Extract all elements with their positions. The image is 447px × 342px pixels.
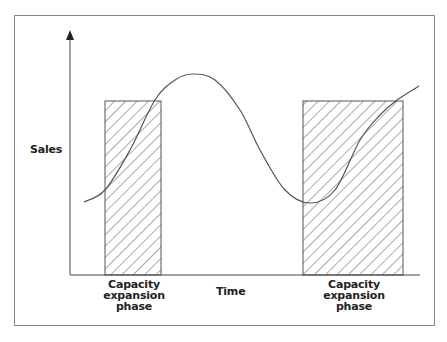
phase-label-left: Capacity expansion phase [96, 279, 172, 312]
phase-label-right-line: phase [316, 301, 392, 312]
phase-label-right: Capacity expansion phase [316, 279, 392, 312]
chart-figure: Sales Time Capacity expansion phase Capa… [0, 0, 447, 342]
y-axis-label: Sales [30, 144, 62, 155]
phase-label-left-line: phase [96, 301, 172, 312]
capacity-phase-region-left [105, 101, 161, 275]
y-axis-arrow-icon [66, 30, 74, 40]
x-axis-label: Time [216, 286, 245, 297]
capacity-phase-region-right [303, 101, 403, 275]
